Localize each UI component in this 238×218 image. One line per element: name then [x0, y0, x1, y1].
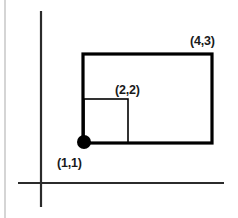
- inner-square: [84, 99, 128, 143]
- label-2-2: (2,2): [115, 83, 140, 97]
- label-1-1: (1,1): [57, 156, 82, 170]
- coordinate-diagram: (4,3) (2,2) (1,1): [0, 0, 238, 218]
- anchor-point: [77, 135, 91, 149]
- diagram-canvas: (4,3) (2,2) (1,1): [0, 0, 238, 218]
- label-4-3: (4,3): [190, 34, 215, 48]
